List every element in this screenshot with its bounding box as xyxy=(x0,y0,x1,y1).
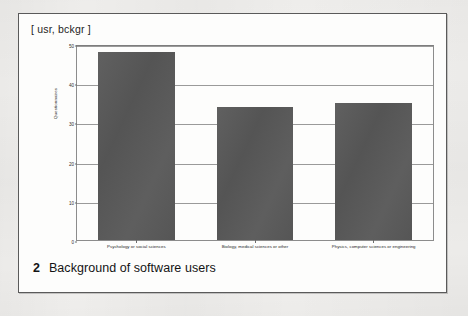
figure-box: [ usr, bckgr ] Questionnaires 0102030405… xyxy=(18,13,447,293)
y-axis-tick-mark xyxy=(75,124,78,125)
y-axis-tick-mark xyxy=(75,163,78,164)
figure-header-label: [ usr, bckgr ] xyxy=(31,23,91,35)
x-axis-category-label: Physics, computer sciences or engineerin… xyxy=(332,244,416,249)
gridline xyxy=(77,46,433,47)
y-axis-tick-mark xyxy=(75,46,78,47)
caption-number: 2 xyxy=(33,261,40,275)
x-axis-tick-mark xyxy=(255,240,256,243)
x-axis-tick-mark xyxy=(373,240,374,243)
y-axis-tick-mark xyxy=(75,242,78,243)
y-axis-tick-label: 30 xyxy=(69,122,74,127)
caption-text: Background of software users xyxy=(49,261,216,275)
x-axis-tick-mark xyxy=(136,240,137,243)
bar xyxy=(335,103,412,240)
y-axis-title: Questionnaires xyxy=(53,64,58,144)
y-axis-tick-label: 10 xyxy=(69,200,74,205)
y-axis-tick-mark xyxy=(75,202,78,203)
y-axis-tick-mark xyxy=(75,85,78,86)
bar-chart: Questionnaires 01020304050Psychology or … xyxy=(39,45,434,257)
x-axis-category-label: Psychology or social sciences xyxy=(107,244,166,249)
figure-caption: 2 Background of software users xyxy=(33,261,216,275)
y-axis-tick-label: 40 xyxy=(69,83,74,88)
bar xyxy=(98,52,175,240)
bar xyxy=(217,107,294,240)
y-axis-tick-label: 0 xyxy=(71,240,74,245)
y-axis-tick-label: 50 xyxy=(69,44,74,49)
x-axis-category-label: Biology, medical sciences or other xyxy=(222,244,289,249)
y-axis-tick-label: 20 xyxy=(69,161,74,166)
plot-area: 01020304050Psychology or social sciences… xyxy=(76,45,434,241)
